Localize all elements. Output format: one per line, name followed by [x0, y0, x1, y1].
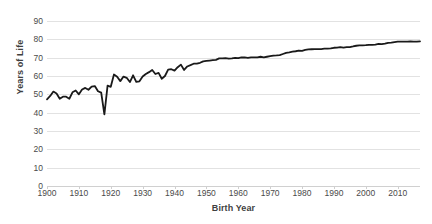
- series-line: [47, 41, 420, 114]
- axis-baseline: [47, 186, 420, 187]
- y-tick-label: 10: [17, 164, 43, 173]
- x-tick-label: 2010: [378, 189, 418, 198]
- plot-area: [47, 21, 420, 186]
- y-tick-label: 40: [17, 109, 43, 118]
- y-tick-label: 30: [17, 127, 43, 136]
- x-axis-title: Birth Year: [47, 203, 420, 213]
- chart-container: Years of Life 0102030405060708090 190019…: [0, 0, 432, 224]
- y-tick-label: 90: [17, 17, 43, 26]
- y-tick-label: 70: [17, 54, 43, 63]
- y-tick-label: 20: [17, 145, 43, 154]
- line-series: [47, 21, 420, 186]
- y-tick-label: 50: [17, 90, 43, 99]
- y-tick-label: 80: [17, 35, 43, 44]
- y-tick-label: 60: [17, 72, 43, 81]
